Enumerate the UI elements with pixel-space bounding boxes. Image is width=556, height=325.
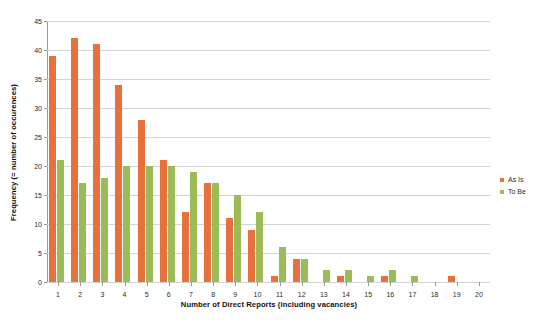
x-tick-label: 5	[136, 291, 158, 298]
x-tick-mark	[58, 282, 59, 286]
y-tick-label: 10	[34, 221, 42, 228]
legend-swatch-icon	[500, 178, 504, 182]
y-tick-label: 5	[38, 250, 42, 257]
bar-as-is[interactable]	[337, 276, 344, 282]
bar-to-be[interactable]	[123, 166, 130, 282]
bar-group: 6	[158, 21, 180, 282]
bar-to-be[interactable]	[279, 247, 286, 282]
x-tick-label: 2	[69, 291, 91, 298]
gridline	[47, 282, 490, 283]
x-tick-label: 10	[246, 291, 268, 298]
plot-area: 051015202530354045 123456789101112131415…	[47, 21, 490, 283]
bar-group: 14	[335, 21, 357, 282]
y-tick-label: 45	[34, 18, 42, 25]
bar-group: 4	[113, 21, 135, 282]
bar-group: 2	[69, 21, 91, 282]
bar-group: 12	[291, 21, 313, 282]
y-tick-label: 30	[34, 105, 42, 112]
bar-as-is[interactable]	[448, 276, 455, 282]
bar-group: 3	[91, 21, 113, 282]
bar-group: 16	[379, 21, 401, 282]
bar-to-be[interactable]	[345, 270, 352, 282]
x-tick-label: 17	[401, 291, 423, 298]
bar-as-is[interactable]	[226, 218, 233, 282]
bar-chart: Frequency (= number of occurences) 05101…	[0, 0, 556, 325]
bar-to-be[interactable]	[190, 172, 197, 282]
bar-group: 8	[202, 21, 224, 282]
bar-group: 20	[468, 21, 490, 282]
bar-group: 17	[401, 21, 423, 282]
x-tick-mark	[435, 282, 436, 286]
bar-to-be[interactable]	[79, 183, 86, 282]
bar-as-is[interactable]	[293, 259, 300, 282]
x-tick-label: 7	[180, 291, 202, 298]
bar-to-be[interactable]	[101, 178, 108, 282]
bar-group: 18	[424, 21, 446, 282]
x-tick-mark	[346, 282, 347, 286]
x-tick-label: 1	[47, 291, 69, 298]
x-tick-label: 18	[424, 291, 446, 298]
bar-as-is[interactable]	[115, 85, 122, 282]
bar-group: 15	[357, 21, 379, 282]
bar-to-be[interactable]	[212, 183, 219, 282]
bar-group: 5	[136, 21, 158, 282]
x-tick-label: 9	[224, 291, 246, 298]
x-tick-mark	[257, 282, 258, 286]
y-tick-label: 20	[34, 163, 42, 170]
bar-as-is[interactable]	[93, 44, 100, 282]
x-tick-mark	[169, 282, 170, 286]
x-tick-label: 20	[468, 291, 490, 298]
x-tick-label: 6	[158, 291, 180, 298]
x-tick-mark	[213, 282, 214, 286]
bar-as-is[interactable]	[271, 276, 278, 282]
y-tick-label: 15	[34, 192, 42, 199]
x-tick-mark	[390, 282, 391, 286]
legend-label: As Is	[508, 176, 524, 183]
x-tick-mark	[412, 282, 413, 286]
x-tick-mark	[191, 282, 192, 286]
bar-to-be[interactable]	[57, 160, 64, 282]
y-axis-title: Frequency (= number of occurences)	[9, 48, 18, 258]
bar-to-be[interactable]	[389, 270, 396, 282]
bar-group: 13	[313, 21, 335, 282]
x-tick-label: 4	[113, 291, 135, 298]
legend-item-as-is[interactable]: As Is	[500, 176, 526, 183]
bar-as-is[interactable]	[182, 212, 189, 282]
bar-to-be[interactable]	[168, 166, 175, 282]
bar-as-is[interactable]	[204, 183, 211, 282]
x-tick-mark	[479, 282, 480, 286]
x-tick-mark	[280, 282, 281, 286]
legend-item-to-be[interactable]: To Be	[500, 188, 526, 195]
x-tick-label: 15	[357, 291, 379, 298]
x-tick-mark	[125, 282, 126, 286]
x-tick-mark	[147, 282, 148, 286]
legend-swatch-icon	[500, 190, 504, 194]
bar-group: 11	[269, 21, 291, 282]
bar-to-be[interactable]	[234, 195, 241, 282]
y-tick-label: 35	[34, 76, 42, 83]
chart-legend: As IsTo Be	[500, 176, 526, 200]
bar-to-be[interactable]	[323, 270, 330, 282]
x-tick-label: 8	[202, 291, 224, 298]
bar-as-is[interactable]	[71, 38, 78, 282]
x-tick-label: 11	[269, 291, 291, 298]
x-tick-label: 19	[446, 291, 468, 298]
bar-to-be[interactable]	[256, 212, 263, 282]
x-tick-label: 13	[313, 291, 335, 298]
x-tick-mark	[235, 282, 236, 286]
bar-as-is[interactable]	[381, 276, 388, 282]
bar-as-is[interactable]	[248, 230, 255, 282]
x-tick-label: 12	[291, 291, 313, 298]
bar-as-is[interactable]	[49, 56, 56, 282]
x-tick-label: 14	[335, 291, 357, 298]
bar-to-be[interactable]	[301, 259, 308, 282]
bar-group: 19	[446, 21, 468, 282]
x-tick-label: 3	[91, 291, 113, 298]
bar-group: 9	[224, 21, 246, 282]
x-tick-mark	[80, 282, 81, 286]
bar-as-is[interactable]	[160, 160, 167, 282]
bar-as-is[interactable]	[138, 120, 145, 282]
x-axis-title: Number of Direct Reports (including vaca…	[44, 300, 494, 309]
x-tick-mark	[368, 282, 369, 286]
bar-to-be[interactable]	[146, 166, 153, 282]
